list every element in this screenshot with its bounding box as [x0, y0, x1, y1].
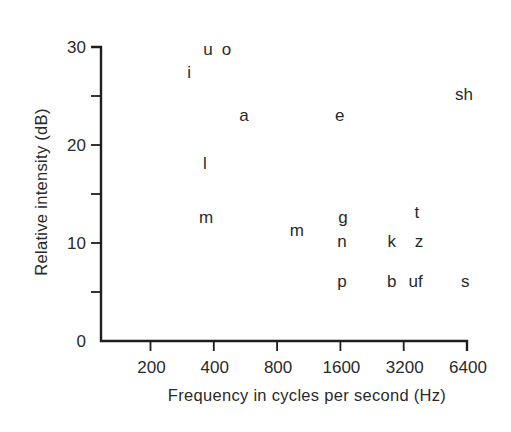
- axes: 0102030 200400800160032006400: [67, 38, 487, 377]
- x-axis-title: Frequency in cycles per second (Hz): [168, 386, 446, 404]
- x-tick-label: 1600: [322, 358, 360, 377]
- point-label-uf: uf: [409, 272, 423, 291]
- point-label-p: p: [337, 272, 346, 291]
- y-tick-label: 0: [77, 332, 86, 351]
- y-tick-label: 30: [67, 38, 86, 57]
- point-label-e: e: [335, 106, 344, 125]
- x-tick-label: 3200: [386, 358, 424, 377]
- x-ticks: 200400800160032006400: [137, 341, 487, 377]
- point-label-o: o: [222, 40, 231, 59]
- y-axis-line: [91, 47, 467, 351]
- point-label-g: g: [338, 208, 347, 227]
- point-label-t: t: [415, 203, 420, 222]
- y-tick-label: 10: [67, 234, 86, 253]
- x-tick-label: 6400: [449, 358, 487, 377]
- point-label-n: n: [337, 232, 346, 251]
- point-label-u: u: [203, 40, 212, 59]
- y-ticks: 0102030: [67, 38, 101, 351]
- point-label-a: a: [239, 106, 249, 125]
- point-label-m: m: [290, 221, 304, 240]
- x-tick-label: 200: [137, 358, 165, 377]
- point-label-b: b: [387, 272, 396, 291]
- point-label-i: i: [187, 63, 191, 82]
- x-tick-label: 800: [264, 358, 292, 377]
- point-label-z: z: [415, 232, 424, 251]
- y-axis-title: Relative intensity (dB): [32, 108, 50, 275]
- point-label-sh: sh: [455, 85, 473, 104]
- point-label-s: s: [461, 272, 470, 291]
- point-label-k: k: [388, 232, 397, 251]
- x-tick-label: 400: [201, 358, 229, 377]
- chart: 0102030 200400800160032006400 uoiaeshlmm…: [0, 0, 511, 432]
- y-tick-label: 20: [67, 136, 86, 155]
- data-points: uoiaeshlmmgntkzpbufs: [187, 40, 473, 291]
- point-label-m: m: [199, 208, 213, 227]
- point-label-l: l: [203, 154, 207, 173]
